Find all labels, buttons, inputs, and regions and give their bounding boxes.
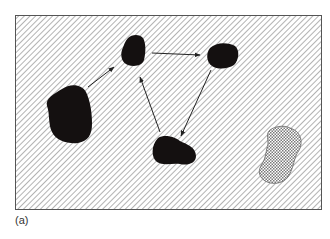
diagram-figure — [0, 0, 330, 239]
figure-caption: (a) — [15, 214, 28, 226]
top-right-blob — [207, 43, 238, 68]
